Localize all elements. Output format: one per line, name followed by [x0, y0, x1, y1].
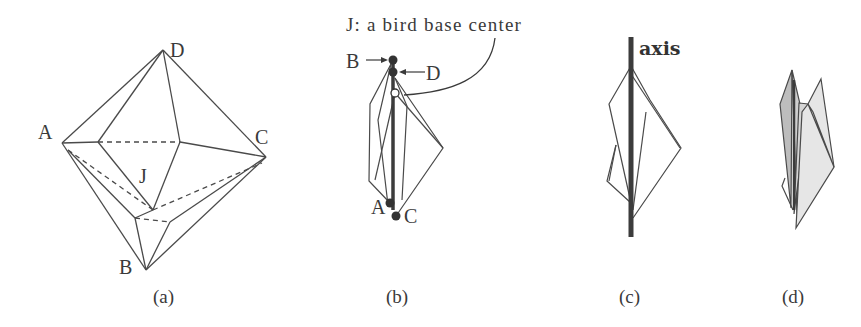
vertex-label-c: C	[404, 206, 417, 226]
vertex-c-dot	[392, 212, 401, 221]
vertex-label-j: J	[139, 166, 147, 186]
caption-b: (b)	[386, 287, 408, 306]
caption-d: (d)	[782, 287, 804, 306]
vertex-a-dot	[386, 199, 395, 208]
bird-base-center-annotation: J: a bird base center	[346, 15, 522, 34]
panel-c-drawing	[607, 66, 681, 218]
vertex-label-c: C	[255, 127, 268, 147]
vertex-label-a: A	[38, 122, 52, 142]
vertex-b-dot	[389, 56, 398, 65]
caption-c: (c)	[619, 287, 640, 306]
vertex-label-d: D	[170, 40, 184, 60]
caption-a: (a)	[153, 287, 174, 306]
panel-d-drawing	[780, 70, 834, 228]
vertex-label-d: D	[426, 63, 440, 83]
vertex-j-open-dot	[391, 89, 399, 97]
vertex-d-dot	[389, 68, 398, 77]
vertex-label-b: B	[119, 257, 132, 277]
axis-label: axis	[639, 39, 681, 58]
panel-a-drawing	[62, 50, 266, 270]
vertex-label-a: A	[371, 197, 385, 217]
vertex-label-b: B	[346, 51, 359, 71]
